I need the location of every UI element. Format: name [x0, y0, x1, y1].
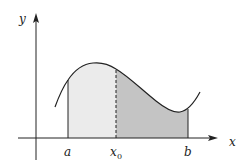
- area-x0-to-b: [116, 69, 188, 138]
- label-b: b: [184, 145, 192, 159]
- label-x0: x: [110, 145, 117, 159]
- x-axis-label: x: [229, 135, 236, 149]
- area-a-to-x0: [68, 63, 116, 138]
- y-axis-label: y: [18, 12, 26, 26]
- label-a: a: [64, 145, 71, 159]
- label-x0-subscript: 0: [117, 152, 122, 161]
- integral-diagram: y x a x 0 b: [0, 0, 250, 164]
